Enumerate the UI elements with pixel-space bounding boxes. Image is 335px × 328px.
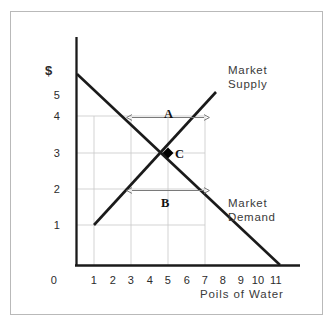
x-tick-label-9: 9 bbox=[233, 275, 249, 286]
y-tick-label-1: 1 bbox=[44, 220, 60, 231]
market-demand-label: Market Demand bbox=[228, 196, 276, 225]
x-tick-label-5: 5 bbox=[160, 275, 176, 286]
x-tick-label-4: 4 bbox=[142, 275, 158, 286]
x-tick-label-6: 6 bbox=[179, 275, 195, 286]
y-axis-unit-label: $ bbox=[45, 64, 52, 77]
market-demand-label-line1: Market bbox=[228, 196, 276, 210]
y-tick-label-2: 2 bbox=[44, 184, 60, 195]
x-tick-label-3: 3 bbox=[123, 275, 139, 286]
x-tick-label-11: 11 bbox=[268, 275, 284, 286]
region-label-b: B bbox=[161, 197, 169, 210]
market-demand-curve bbox=[77, 74, 280, 265]
y-tick-label-4: 4 bbox=[44, 111, 60, 122]
chart-figure: $ 5 4 3 2 1 0 1 2 3 4 5 6 7 8 9 10 11 Po… bbox=[0, 0, 335, 328]
market-supply-label-line2: Supply bbox=[228, 77, 267, 91]
y-tick-label-3: 3 bbox=[44, 148, 60, 159]
equilibrium-point-label-c: C bbox=[175, 148, 184, 161]
x-axis-title: Poils of Water bbox=[200, 289, 284, 301]
y-tick-label-5: 5 bbox=[44, 90, 60, 101]
x-tick-label-8: 8 bbox=[215, 275, 231, 286]
x-tick-label-7: 7 bbox=[197, 275, 213, 286]
market-supply-label-line1: Market bbox=[228, 63, 267, 77]
market-demand-label-line2: Demand bbox=[228, 210, 276, 224]
x-tick-label-10: 10 bbox=[250, 275, 266, 286]
x-tick-label-2: 2 bbox=[105, 275, 121, 286]
x-tick-label-1: 1 bbox=[86, 275, 102, 286]
region-label-a: A bbox=[164, 108, 173, 121]
market-supply-label: Market Supply bbox=[228, 63, 267, 92]
market-supply-curve bbox=[94, 92, 216, 225]
x-tick-label-0: 0 bbox=[46, 275, 62, 286]
